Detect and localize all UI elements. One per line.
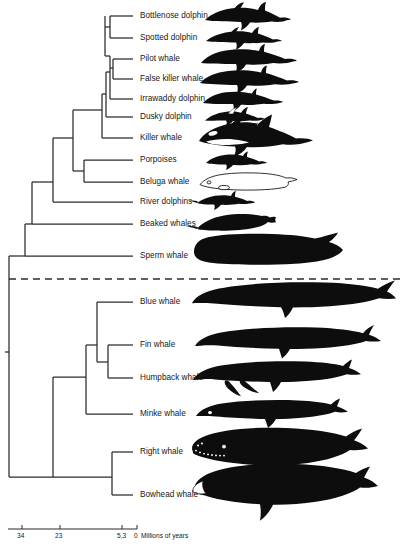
beluga-whale-silhouette	[200, 173, 297, 190]
humpback-whale-silhouette	[193, 359, 361, 396]
tip-label-river-dolphins: River dolphins	[140, 198, 192, 206]
river-dolphin-silhouette	[189, 191, 255, 210]
tip-label-false-killer-whale: False killer whale	[140, 75, 203, 83]
tip-label-killer-whale: Killer whale	[140, 134, 182, 142]
tip-label-blue-whale: Blue whale	[140, 298, 180, 306]
tip-label-dusky-dolphin: Dusky dolphin	[140, 113, 192, 121]
tip-label-bottlenose-dolphin: Bottlenose dolphin	[140, 12, 208, 20]
minke-eye	[208, 411, 212, 414]
axis-tick-label-5-3: 5,3	[117, 533, 126, 540]
humpback-pectoral-fin	[225, 381, 241, 397]
tip-label-sperm-whale: Sperm whale	[140, 252, 188, 260]
pilot-whale-silhouette	[201, 44, 297, 72]
tip-label-spotted-dolphin: Spotted dolphin	[140, 34, 197, 42]
irrawaddy-dolphin-silhouette	[203, 89, 283, 111]
bowhead-whale-silhouette	[193, 464, 378, 521]
tip-label-right-whale: Right whale	[140, 448, 183, 456]
false-killer-whale-silhouette	[200, 65, 299, 93]
tip-label-bowhead-whale: Bowhead whale	[140, 491, 198, 499]
blue-whale-silhouette	[192, 280, 396, 318]
tip-label-minke-whale: Minke whale	[140, 410, 186, 418]
bottlenose-dolphin-silhouette	[205, 2, 291, 30]
tip-label-porpoises: Porpoises	[140, 156, 177, 164]
tip-label-beluga-whale: Beluga whale	[140, 178, 189, 186]
tip-label-fin-whale: Fin whale	[140, 341, 175, 349]
right-whale-eye	[222, 445, 226, 449]
tip-label-beaked-whales: Beaked whales	[140, 220, 196, 228]
beluga-eye	[207, 181, 211, 184]
sperm-whale-silhouette	[194, 232, 343, 264]
tip-label-irrawaddy-dolphin: Irrawaddy dolphin	[140, 95, 205, 103]
fin-whale-silhouette	[195, 325, 381, 358]
phylogenetic-tree-figure: Bottlenose dolphin Spotted dolphin Pilot…	[0, 0, 404, 551]
tip-label-pilot-whale: Pilot whale	[140, 55, 180, 63]
tree-branches	[5, 16, 133, 495]
silhouette-group	[186, 2, 396, 521]
axis-tick-label-23: 23	[55, 533, 62, 540]
tip-label-humpback-whale: Humpback whale	[140, 374, 203, 382]
axis-unit-label: Millions of years	[141, 533, 188, 540]
beluga-flipper	[219, 186, 230, 190]
axis-tick-label-34: 34	[17, 533, 24, 540]
time-axis	[8, 525, 137, 529]
spotted-dolphin-silhouette	[206, 27, 282, 49]
killer-whale-silhouette	[199, 115, 313, 157]
axis-tick-label-0: 0	[134, 533, 138, 540]
minke-whale-silhouette	[196, 398, 348, 428]
beaked-whale-silhouette	[186, 214, 276, 231]
